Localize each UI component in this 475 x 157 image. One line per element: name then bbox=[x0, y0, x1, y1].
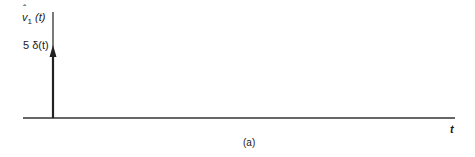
impulse-arrowhead bbox=[50, 45, 57, 57]
y-axis-label: ˆ v 1 (t) bbox=[22, 12, 45, 26]
impulse-label: 5 δ(t) bbox=[23, 40, 49, 51]
impulse-plot bbox=[0, 0, 475, 157]
figure-caption: (a) bbox=[243, 138, 255, 148]
x-axis-label: t bbox=[450, 124, 454, 135]
